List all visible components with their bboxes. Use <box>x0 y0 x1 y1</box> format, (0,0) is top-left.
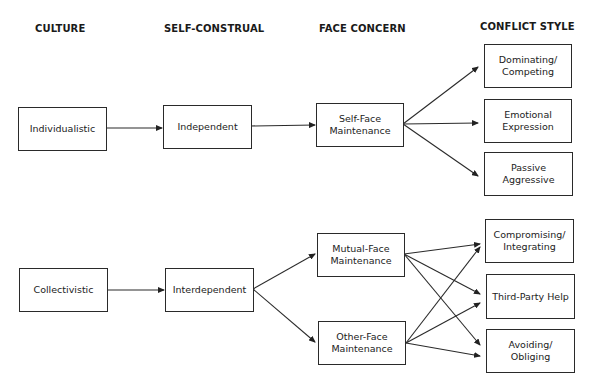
arrow-selfface-passive <box>403 124 478 176</box>
label-other-face: Other-Face Maintenance <box>319 331 405 355</box>
label-compromising: Compromising/ Integrating <box>486 229 573 253</box>
box-passive-aggressive: Passive Aggressive <box>484 152 573 196</box>
label-collectivistic: Collectivistic <box>31 284 97 296</box>
label-avoiding: Avoiding/ Obliging <box>487 339 574 363</box>
arrow-mutualface-compromising <box>404 244 480 254</box>
box-dominating: Dominating/ Competing <box>484 44 572 88</box>
arrow-selfface-emotional <box>403 123 478 124</box>
label-mutual-face: Mutual-Face Maintenance <box>318 243 404 267</box>
label-third-party: Third-Party Help <box>489 291 572 303</box>
label-dominating: Dominating/ Competing <box>485 54 571 78</box>
box-collectivistic: Collectivistic <box>19 268 108 312</box>
label-self-face: Self-Face Maintenance <box>317 113 403 137</box>
box-emotional: Emotional Expression <box>484 99 572 143</box>
box-third-party: Third-Party Help <box>486 274 575 319</box>
arrow-mutualface-thirdparty <box>404 254 480 294</box>
arrow-independent-selfface <box>251 125 315 126</box>
arrow-otherface-thirdparty <box>406 303 480 343</box>
box-self-face: Self-Face Maintenance <box>316 103 404 147</box>
label-individualistic: Individualistic <box>27 123 98 135</box>
label-interdependent: Interdependent <box>170 284 250 296</box>
arrow-interdependent-mutualface <box>253 254 315 289</box>
label-independent: Independent <box>174 121 240 133</box>
box-individualistic: Individualistic <box>18 107 107 151</box>
label-passive-aggressive: Passive Aggressive <box>485 162 572 186</box>
arrow-selfface-dominating <box>403 67 478 124</box>
box-independent: Independent <box>163 105 252 149</box>
box-mutual-face: Mutual-Face Maintenance <box>317 233 405 277</box>
box-avoiding: Avoiding/ Obliging <box>486 329 575 373</box>
arrow-otherface-avoiding <box>406 343 480 356</box>
label-emotional: Emotional Expression <box>485 109 571 133</box>
box-other-face: Other-Face Maintenance <box>318 321 406 365</box>
box-interdependent: Interdependent <box>165 268 254 312</box>
box-compromising: Compromising/ Integrating <box>485 219 574 263</box>
arrow-interdependent-otherface <box>253 289 315 342</box>
